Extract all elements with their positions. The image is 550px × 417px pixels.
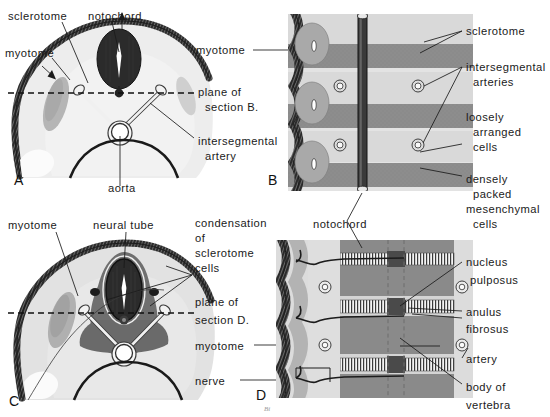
- label-loosely-3: cells: [473, 141, 498, 153]
- notochord-bottom-cap-b: [358, 186, 368, 192]
- notochord-top-cap-b: [358, 13, 368, 19]
- label-myotome-d: myotome: [195, 340, 244, 352]
- label-condensation-3: sclerotome: [195, 247, 254, 259]
- label-nerve-d: nerve: [195, 375, 225, 387]
- label-nucleus-pulposus-2: pulposus: [470, 274, 518, 286]
- notochord-core-c: [122, 318, 126, 322]
- label-loosely-2: arranged: [473, 126, 521, 138]
- label-condensation-4: cells: [195, 262, 220, 274]
- panel-letter-b: B: [268, 172, 278, 188]
- label-anulus-fibrosus-1: anulus: [466, 306, 502, 318]
- figure-root: sclerotome notochord myotome plane of se…: [0, 0, 550, 417]
- label-plane-of-section-b-1: plane of: [198, 86, 242, 98]
- label-sclerotome-a: sclerotome: [8, 10, 67, 22]
- label-loosely-1: loosely: [466, 111, 504, 123]
- artist-signature: Bi: [264, 405, 270, 413]
- label-nucleus-pulposus-1: nucleus: [466, 256, 508, 268]
- intervertebral-disc-d-2: [340, 298, 454, 315]
- aorta-lumen-c: [116, 345, 133, 362]
- label-body-of-vertebra-2: vertebra: [466, 399, 511, 411]
- label-condensation-1: condensation: [195, 217, 267, 229]
- notochord-column-b: [358, 14, 367, 191]
- panel-letter-d: D: [256, 387, 267, 403]
- label-myotome-b: myotome: [196, 44, 245, 56]
- nucleus-pulposus-d-2: [387, 298, 405, 315]
- notochord-highlight-b: [360, 14, 362, 191]
- panel-letter-a: A: [14, 172, 24, 188]
- label-plane-d-2: section D.: [195, 314, 249, 326]
- label-densely-3: mesenchymal: [466, 203, 540, 215]
- label-plane-d-1: plane of: [195, 296, 239, 308]
- label-myotome-c: myotome: [8, 219, 57, 231]
- vertebral-body-d-1: [340, 262, 454, 296]
- intervertebral-disc-d-3: [340, 356, 454, 373]
- label-plane-of-section-b-2: section B.: [205, 101, 259, 113]
- panel-d-illustration: [276, 236, 473, 404]
- label-anulus-fibrosus-2: fibrosus: [466, 323, 509, 335]
- panel-letter-c: C: [9, 393, 20, 409]
- label-intersegmental-arteries-1: intersegmental: [466, 61, 546, 73]
- label-sclerotome-b: sclerotome: [466, 25, 525, 37]
- vertebral-body-d-2: [340, 316, 454, 354]
- label-artery-d: artery: [466, 353, 497, 365]
- embryology-figure: sclerotome notochord myotome plane of se…: [0, 0, 550, 417]
- ganglion-left-c: [90, 288, 100, 296]
- label-intersegmental-artery-1: intersegmental: [198, 135, 278, 147]
- label-aorta-a: aorta: [108, 182, 136, 194]
- label-densely-1: densely: [466, 173, 508, 185]
- label-myotome-a: myotome: [5, 47, 54, 59]
- panel-b-illustration: [288, 10, 473, 196]
- label-body-of-vertebra-1: body of: [466, 381, 506, 393]
- label-intersegmental-arteries-2: arteries: [473, 76, 514, 88]
- label-intersegmental-artery-2: artery: [205, 150, 236, 162]
- label-densely-2: packed: [473, 188, 512, 200]
- label-notochord-a: notochord: [88, 10, 142, 22]
- vertebral-body-d-3: [340, 374, 454, 398]
- nucleus-pulposus-d-3: [387, 356, 405, 373]
- label-notochord-b: notochord: [313, 218, 367, 230]
- label-condensation-2: of: [195, 232, 206, 244]
- label-densely-4: cells: [473, 218, 498, 230]
- label-neural-tube-c: neural tube: [93, 219, 154, 231]
